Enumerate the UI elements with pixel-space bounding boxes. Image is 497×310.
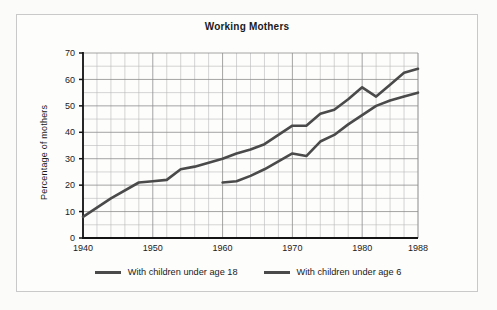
- plot-area: 010203040506070 194019501960197019801988: [17, 15, 479, 293]
- y-tick-label: 70: [65, 48, 75, 58]
- y-tick-label: 40: [65, 127, 75, 137]
- legend-item-under-18: With children under age 18: [95, 267, 238, 277]
- y-tick-label: 20: [65, 180, 75, 190]
- y-tick-label: 30: [65, 154, 75, 164]
- x-tick-label: 1960: [213, 243, 233, 253]
- minor-gridlines: [83, 53, 418, 238]
- x-tick-label: 1988: [408, 243, 428, 253]
- legend-label: With children under age 18: [128, 267, 238, 277]
- x-tick-label: 1950: [143, 243, 163, 253]
- legend-line-swatch: [95, 271, 121, 274]
- x-tick-label: 1980: [352, 243, 372, 253]
- x-tick-label: 1970: [282, 243, 302, 253]
- axis-lines: [79, 52, 418, 238]
- x-tick-labels: 194019501960197019801988: [73, 243, 428, 253]
- legend-label: With children under age 6: [297, 267, 402, 277]
- legend-line-swatch: [264, 271, 290, 274]
- chart-screenshot: Working Mothers Percentage of mothers 01…: [0, 0, 497, 310]
- y-tick-labels: 010203040506070: [65, 48, 75, 243]
- x-tick-label: 1940: [73, 243, 93, 253]
- figure-frame: Working Mothers Percentage of mothers 01…: [16, 14, 478, 292]
- y-tick-label: 0: [70, 233, 75, 243]
- legend-item-under-6: With children under age 6: [264, 267, 402, 277]
- y-tick-label: 10: [65, 207, 75, 217]
- y-tick-label: 50: [65, 101, 75, 111]
- chart-canvas: 010203040506070 194019501960197019801988: [17, 15, 479, 293]
- y-tick-label: 60: [65, 75, 75, 85]
- chart-legend: With children under age 18 With children…: [35, 259, 461, 285]
